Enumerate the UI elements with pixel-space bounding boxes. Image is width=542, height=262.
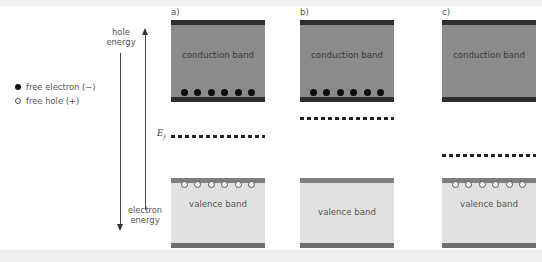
valence-band-bottom-edge xyxy=(442,243,536,248)
electron-icon xyxy=(221,89,228,96)
bottom-border-strip xyxy=(0,250,542,262)
valence-band-top-edge xyxy=(300,178,394,183)
valence-band-label: valence band xyxy=(171,199,265,209)
conduction-band-label: conduction band xyxy=(300,50,394,60)
panel-a-fermi-level xyxy=(171,135,265,138)
top-border-strip xyxy=(0,0,542,6)
panel-c-valence-band: valence band xyxy=(442,178,536,248)
conduction-band-top-edge xyxy=(171,20,265,25)
legend: free electron (−) free hole (+) xyxy=(15,80,96,108)
hole-icon xyxy=(15,98,21,104)
electron-energy-label: electron energy xyxy=(124,205,166,225)
hole-icon xyxy=(479,181,486,188)
valence-band-label: valence band xyxy=(300,207,394,217)
hole-icon xyxy=(181,181,188,188)
hole-icon xyxy=(492,181,499,188)
fermi-level-label: Ef xyxy=(157,128,166,140)
panel-b-valence-band: valence band xyxy=(300,178,394,248)
arrow-up-icon xyxy=(142,28,148,35)
hole-energy-line1: hole xyxy=(104,27,138,37)
valence-band-bottom-edge xyxy=(171,243,265,248)
electron-icon xyxy=(235,89,242,96)
panel-c-label: c) xyxy=(442,7,450,17)
panel-c-fermi-level xyxy=(442,154,536,157)
panel-a-label: a) xyxy=(171,7,180,17)
electron-icon xyxy=(181,89,188,96)
conduction-band-top-edge xyxy=(300,20,394,25)
legend-hole-label: free hole (+) xyxy=(26,94,79,108)
electron-icon xyxy=(194,89,201,96)
electron-icon xyxy=(377,89,384,96)
electron-energy-arrow-line xyxy=(120,53,121,226)
hole-icon xyxy=(208,181,215,188)
electron-icon xyxy=(337,89,344,96)
hole-icon xyxy=(519,181,526,188)
conduction-band-label: conduction band xyxy=(442,50,536,60)
legend-electron-label: free electron (−) xyxy=(26,80,96,94)
electrons-row xyxy=(300,89,394,96)
conduction-band-bottom-edge xyxy=(300,97,394,102)
conduction-band-label: conduction band xyxy=(171,50,265,60)
arrow-down-icon xyxy=(117,224,123,231)
panel-a-conduction-band: conduction band xyxy=(171,20,265,102)
panel-b-fermi-level xyxy=(300,117,394,120)
hole-icon xyxy=(221,181,228,188)
fermi-subscript: f xyxy=(163,133,165,140)
valence-band-bottom-edge xyxy=(300,243,394,248)
electrons-row xyxy=(171,89,265,96)
electron-icon xyxy=(15,84,21,90)
electron-icon xyxy=(350,89,357,96)
hole-icon xyxy=(452,181,459,188)
hole-icon xyxy=(248,181,255,188)
panel-a-valence-band: valence band xyxy=(171,178,265,248)
panel-b-conduction-band: conduction band xyxy=(300,20,394,102)
hole-energy-arrow-line xyxy=(145,34,146,210)
electron-energy-line2: energy xyxy=(124,215,166,225)
electron-icon xyxy=(323,89,330,96)
conduction-band-top-edge xyxy=(442,20,536,25)
legend-electron: free electron (−) xyxy=(15,80,96,94)
hole-icon xyxy=(465,181,472,188)
electron-icon xyxy=(248,89,255,96)
hole-icon xyxy=(506,181,513,188)
hole-energy-line2: energy xyxy=(104,37,138,47)
hole-icon xyxy=(194,181,201,188)
holes-row xyxy=(171,181,265,188)
hole-energy-label: hole energy xyxy=(104,27,138,47)
panel-b-label: b) xyxy=(300,7,309,17)
legend-hole: free hole (+) xyxy=(15,94,96,108)
conduction-band-bottom-edge xyxy=(442,97,536,102)
holes-row xyxy=(442,181,536,188)
valence-band-label: valence band xyxy=(442,199,536,209)
hole-icon xyxy=(235,181,242,188)
electron-icon xyxy=(310,89,317,96)
electron-energy-line1: electron xyxy=(124,205,166,215)
electron-icon xyxy=(364,89,371,96)
panel-c-conduction-band: conduction band xyxy=(442,20,536,102)
conduction-band-bottom-edge xyxy=(171,97,265,102)
electron-icon xyxy=(208,89,215,96)
